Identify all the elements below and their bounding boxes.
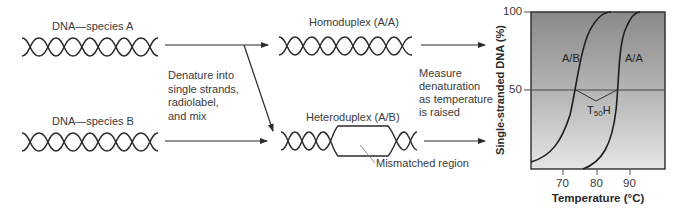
dna-helix-species-a-icon <box>22 38 158 56</box>
mismatched-region-label: Mismatched region <box>376 157 469 170</box>
y-tick-label-50: 50 <box>509 83 522 95</box>
t50h-t: T <box>587 104 594 116</box>
x-tick-label-70: 70 <box>556 177 569 189</box>
t50h-label: T50H <box>587 104 611 118</box>
melting-curve-chart <box>524 12 665 175</box>
x-tick-label-90: 90 <box>623 177 636 189</box>
species-a-label: DNA—species A <box>52 20 133 33</box>
arrow-a-to-heteroduplex <box>244 45 273 131</box>
curve-ab-label: A/B <box>562 52 580 64</box>
measure-denaturation-text: Measure denaturation as temperature is r… <box>419 67 493 119</box>
y-tick-label-100: 100 <box>503 5 522 17</box>
x-axis-title: Temperature (°C) <box>552 192 645 204</box>
t50h-h: H <box>603 104 611 116</box>
species-b-label: DNA—species B <box>52 115 134 128</box>
denature-process-text: Denature into single strands, radiolabel… <box>168 69 239 123</box>
homoduplex-helix-icon <box>279 37 412 55</box>
t50h-subscript: 50 <box>594 109 603 118</box>
x-tick-label-80: 80 <box>590 177 603 189</box>
y-axis-title: Single-stranded DNA (%) <box>494 25 506 155</box>
mismatch-pointer-line <box>360 145 375 163</box>
heteroduplex-label: Heteroduplex (A/B) <box>306 111 400 124</box>
curve-aa-label: A/A <box>625 52 643 64</box>
homoduplex-label: Homoduplex (A/A) <box>309 16 399 29</box>
heteroduplex-helix-icon <box>281 126 417 156</box>
dna-helix-species-b-icon <box>22 133 158 151</box>
